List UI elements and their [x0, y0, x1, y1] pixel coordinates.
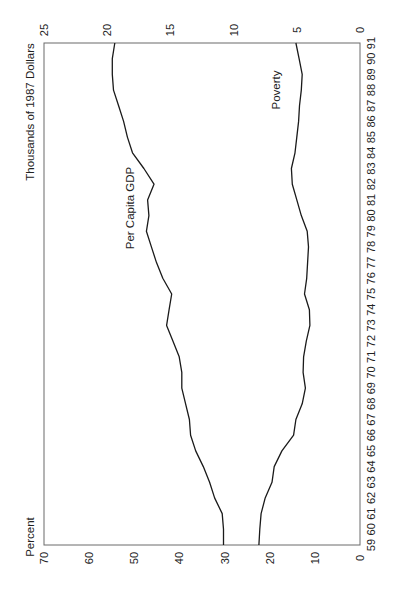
left-axis-tick-label: 50 — [128, 552, 140, 564]
poverty-label: Poverty — [270, 70, 282, 109]
plot-area — [44, 43, 360, 545]
x-axis-tick-label: 65 — [365, 445, 377, 457]
chart: 010203040506070 0510152025 5960616263646… — [0, 0, 393, 596]
x-axis-tick-label: 81 — [365, 194, 377, 206]
x-axis-tick-label: 91 — [365, 37, 377, 49]
x-axis-tick-label: 87 — [365, 100, 377, 112]
left-axis-tick-label: 30 — [219, 552, 231, 564]
x-axis-tick-label: 72 — [365, 335, 377, 347]
x-axis-tick-label: 63 — [365, 476, 377, 488]
x-axis-ticks: 5960616263646566676869707172737475767778… — [365, 37, 377, 551]
right-axis-tick-label: 20 — [101, 24, 113, 36]
x-axis-tick-label: 64 — [365, 460, 377, 472]
x-axis-tick-label: 77 — [365, 257, 377, 269]
right-axis-tick-label: 15 — [164, 24, 176, 36]
left-axis-tick-label: 0 — [354, 555, 366, 561]
x-axis-tick-label: 76 — [365, 272, 377, 284]
x-axis-tick-label: 68 — [365, 398, 377, 410]
x-axis-tick-label: 88 — [365, 84, 377, 96]
left-axis-tick-label: 10 — [309, 552, 321, 564]
x-axis-tick-label: 84 — [365, 147, 377, 159]
left-axis-title: Percent — [24, 516, 36, 556]
x-axis-tick-label: 74 — [365, 304, 377, 316]
x-axis-tick-label: 69 — [365, 382, 377, 394]
left-axis-tick-label: 40 — [173, 552, 185, 564]
per-capita-gdp-line — [112, 43, 223, 545]
x-axis-tick-label: 71 — [365, 351, 377, 363]
x-axis-tick-label: 89 — [365, 68, 377, 80]
poverty-line — [259, 43, 310, 545]
x-axis-tick-label: 80 — [365, 209, 377, 221]
x-axis-tick-label: 83 — [365, 162, 377, 174]
x-axis-tick-label: 86 — [365, 115, 377, 127]
x-axis-tick-label: 85 — [365, 131, 377, 143]
x-axis-tick-label: 59 — [365, 539, 377, 551]
x-axis-tick-label: 66 — [365, 429, 377, 441]
left-axis-tick-label: 70 — [38, 552, 50, 564]
right-axis-ticks: 0510152025 — [38, 24, 366, 36]
x-axis-tick-label: 90 — [365, 53, 377, 65]
x-axis-tick-label: 78 — [365, 241, 377, 253]
x-axis-tick-label: 67 — [365, 413, 377, 425]
x-axis-tick-label: 75 — [365, 288, 377, 300]
x-axis-tick-label: 73 — [365, 319, 377, 331]
x-axis-tick-label: 79 — [365, 225, 377, 237]
right-axis-title: Thousands of 1987 Dollars — [24, 43, 36, 181]
right-axis-tick-label: 10 — [228, 24, 240, 36]
x-axis-tick-label: 70 — [365, 366, 377, 378]
right-axis-tick-label: 0 — [354, 27, 366, 33]
x-axis-tick-label: 60 — [365, 523, 377, 535]
right-axis-tick-label: 25 — [38, 24, 50, 36]
left-axis-tick-label: 60 — [83, 552, 95, 564]
left-axis-ticks: 010203040506070 — [38, 552, 366, 564]
x-axis-tick-label: 61 — [365, 508, 377, 520]
x-axis-tick-label: 82 — [365, 178, 377, 190]
x-axis-tick-label: 62 — [365, 492, 377, 504]
per-capita-gdp-label: Per Capita GDP — [124, 166, 136, 249]
left-axis-tick-label: 20 — [264, 552, 276, 564]
right-axis-tick-label: 5 — [291, 27, 303, 33]
